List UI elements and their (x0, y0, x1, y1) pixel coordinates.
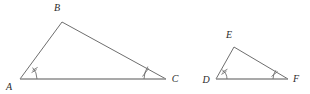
vertex-label-e: E (225, 29, 232, 40)
vertex-label-d: D (201, 74, 210, 85)
angle-mark-f (272, 70, 278, 79)
geometry-figure: A B C D E F (0, 0, 310, 94)
segment-ab (20, 22, 62, 79)
segment-de (216, 47, 234, 79)
vertex-label-a: A (5, 81, 13, 92)
geometry-canvas: A B C D E F (0, 0, 310, 94)
vertex-label-f: F (292, 73, 300, 84)
triangle-def: D E F (201, 29, 300, 85)
vertex-label-c: C (172, 73, 179, 84)
angle-mark-a (32, 67, 38, 79)
angle-mark-d (221, 69, 227, 79)
vertex-label-b: B (54, 2, 60, 13)
segment-ef (234, 47, 288, 79)
segment-bc (62, 22, 166, 79)
triangle-abc: A B C (5, 2, 179, 92)
angle-tick-c-1 (143, 69, 149, 77)
